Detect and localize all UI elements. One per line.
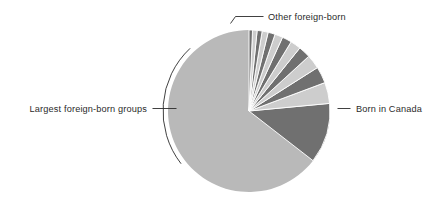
- pie-slice-group: [168, 30, 330, 192]
- leader-line-other-foreign-born: [231, 17, 264, 24]
- pie-chart-svg: Other foreign-born Largest foreign-born …: [0, 0, 447, 202]
- pie-chart-figure: Other foreign-born Largest foreign-born …: [0, 0, 447, 202]
- label-born-in-canada: Born in Canada: [356, 104, 423, 114]
- label-largest-foreign-born-groups: Largest foreign-born groups: [30, 104, 148, 114]
- label-other-foreign-born: Other foreign-born: [268, 12, 346, 22]
